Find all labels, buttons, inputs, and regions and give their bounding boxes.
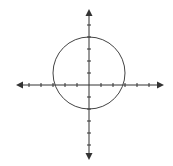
arrow-down-icon [86, 153, 93, 160]
arrow-right-icon [157, 82, 164, 89]
arrow-left-icon [16, 82, 23, 89]
coordinate-plane [0, 0, 173, 166]
arrow-up-icon [86, 9, 93, 16]
x-axis [16, 82, 164, 89]
